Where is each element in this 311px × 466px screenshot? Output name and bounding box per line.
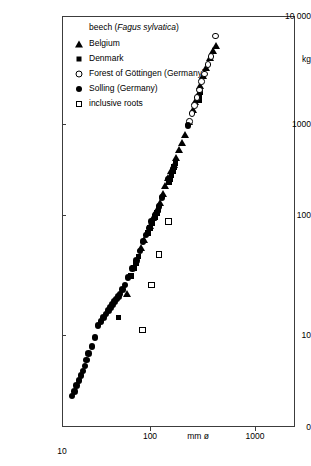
data-point-open-circle xyxy=(205,61,211,67)
data-point-filled-triangle xyxy=(175,146,183,153)
data-point-open-square xyxy=(139,327,145,333)
data-point-open-circle xyxy=(201,71,207,77)
data-point-filled-circle xyxy=(185,122,192,129)
data-point-filled-circle xyxy=(92,334,99,341)
data-point-open-circle xyxy=(198,78,204,84)
data-point-filled-circle xyxy=(69,393,76,400)
data-point-open-square xyxy=(148,282,154,288)
data-point-filled-circle xyxy=(140,238,147,245)
data-points-layer xyxy=(0,0,311,466)
data-point-filled-circle xyxy=(89,343,96,350)
data-point-open-circle xyxy=(191,102,197,108)
data-point-open-circle xyxy=(194,94,200,100)
data-point-filled-circle xyxy=(137,248,144,255)
data-point-open-circle xyxy=(189,110,195,116)
data-point-filled-circle xyxy=(85,350,92,357)
data-point-filled-circle xyxy=(129,265,136,272)
data-point-open-circle xyxy=(212,33,218,39)
data-point-open-circle xyxy=(196,87,202,93)
data-point-filled-circle xyxy=(156,203,163,210)
data-point-open-square xyxy=(165,218,171,224)
data-point-filled-circle xyxy=(133,257,140,264)
data-point-filled-square xyxy=(116,315,122,321)
data-point-filled-circle xyxy=(165,176,172,183)
data-point-open-circle xyxy=(208,53,214,59)
data-point-open-square xyxy=(156,251,162,257)
scatter-chart-figure: 10 000 kg 1000 100 10 0 10 100 mm ø 1000… xyxy=(0,0,311,466)
data-point-filled-triangle xyxy=(181,131,189,138)
data-point-filled-circle xyxy=(95,322,102,329)
data-point-filled-triangle xyxy=(178,139,186,146)
data-point-filled-circle xyxy=(148,218,155,225)
data-point-filled-circle xyxy=(159,194,166,201)
data-point-filled-circle xyxy=(125,274,132,281)
